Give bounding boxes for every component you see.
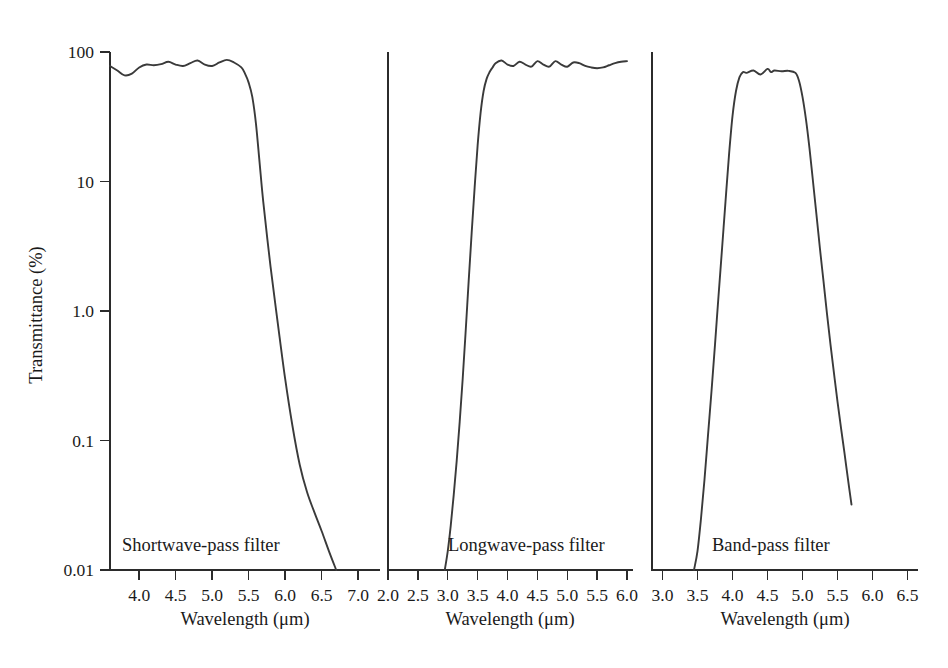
panel1-axes: [100, 52, 380, 580]
panel-shortwave-pass: 100101.00.10.01 4.04.55.05.56.06.57.0 Sh…: [63, 42, 380, 630]
panel2-axis-lines: [388, 52, 633, 570]
panel1-y-tick-label: 1.0: [72, 301, 94, 321]
panel-band-pass: 3.03.54.04.55.05.56.06.5 Band-pass filte…: [652, 52, 919, 630]
y-axis-label: Transmittance (%): [26, 246, 47, 384]
panel2-x-tick-label: 2.5: [407, 585, 429, 605]
panel3-axis-lines: [652, 52, 918, 570]
panel3-x-tick-label: 4.5: [757, 585, 779, 605]
figure-container: Transmittance (%) 100101.00.10.01 4.04.5…: [0, 0, 948, 668]
panel1-y-tick-label: 0.1: [72, 431, 94, 451]
panel3-x-tick-label: 5.0: [792, 585, 814, 605]
panel2-x-tick-label: 4.0: [497, 585, 519, 605]
panel2-x-tick-label: 3.5: [467, 585, 489, 605]
panel2-x-tick-label: 5.0: [556, 585, 578, 605]
panel3-x-tick-label: 5.5: [827, 585, 849, 605]
panel1-y-tick-label: 10: [77, 172, 95, 192]
y-axis-label-group: Transmittance (%): [26, 246, 47, 384]
panel2-x-tick-label: 2.0: [377, 585, 399, 605]
panel1-x-ticks: [139, 570, 358, 580]
panel3-annotation: Band-pass filter: [712, 535, 830, 555]
panel2-x-tick-label: 6.0: [616, 585, 638, 605]
panel3-x-tick-label: 3.5: [687, 585, 709, 605]
panel2-x-tick-label: 3.0: [437, 585, 459, 605]
panel2-x-tick-labels: 2.02.53.03.54.04.55.05.56.0: [377, 585, 638, 605]
panel1-x-axis-title: Wavelength (μm): [180, 609, 309, 630]
panel3-x-tick-label: 6.5: [897, 585, 919, 605]
panel2-data-curve: [445, 60, 627, 570]
panel1-y-tick-labels: 100101.00.10.01: [63, 42, 94, 580]
panel3-x-tick-label: 6.0: [862, 585, 884, 605]
panel1-annotation: Shortwave-pass filter: [122, 535, 280, 555]
panel2-x-ticks: [388, 570, 627, 580]
panel3-axes: [652, 52, 918, 580]
panel3-x-ticks: [663, 570, 908, 580]
panel1-y-tick-label: 0.01: [63, 560, 94, 580]
panel1-x-tick-label: 7.0: [347, 585, 369, 605]
panel3-x-axis-title: Wavelength (μm): [720, 609, 849, 630]
panel1-x-tick-label: 6.5: [311, 585, 333, 605]
panel2-x-axis-title: Wavelength (μm): [445, 609, 574, 630]
panel2-annotation: Longwave-pass filter: [448, 535, 605, 555]
panel1-x-tick-labels: 4.04.55.05.56.06.57.0: [128, 585, 369, 605]
panel3-x-tick-labels: 3.03.54.04.55.05.56.06.5: [652, 585, 919, 605]
panel1-y-ticks: [100, 52, 110, 570]
panel2-axes: [388, 52, 633, 580]
panel1-x-tick-label: 4.5: [165, 585, 187, 605]
panel1-x-tick-label: 5.5: [238, 585, 260, 605]
panel3-data-curve: [694, 69, 852, 570]
panel3-x-tick-label: 3.0: [652, 585, 674, 605]
panel2-x-tick-label: 5.5: [586, 585, 608, 605]
panel1-axis-lines: [110, 52, 380, 570]
panel1-data-curve: [110, 60, 336, 570]
panel2-x-tick-label: 4.5: [526, 585, 548, 605]
panel1-x-tick-label: 6.0: [274, 585, 296, 605]
panel1-x-tick-label: 5.0: [201, 585, 223, 605]
panel3-x-tick-label: 4.0: [722, 585, 744, 605]
panel1-y-tick-label: 100: [68, 42, 95, 62]
filter-transmittance-figure: Transmittance (%) 100101.00.10.01 4.04.5…: [0, 0, 948, 668]
panel-longwave-pass: 2.02.53.03.54.04.55.05.56.0 Longwave-pas…: [377, 52, 638, 630]
panel1-x-tick-label: 4.0: [128, 585, 150, 605]
